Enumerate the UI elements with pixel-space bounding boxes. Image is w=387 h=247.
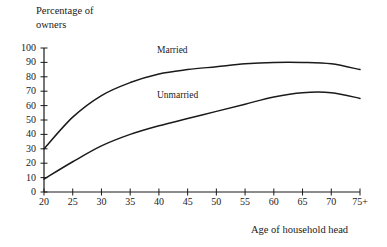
series-label-married: Married	[157, 45, 188, 55]
x-axis-title: Age of household head	[251, 224, 348, 235]
series-label-unmarried: Unmarried	[157, 90, 198, 100]
chart-container: Percentage of owners 0102030405060708090…	[0, 0, 387, 247]
y-tick-label: 0	[14, 187, 36, 197]
y-tick-label: 80	[14, 72, 36, 82]
x-tick-label: 60	[259, 197, 289, 207]
y-tick-label: 50	[14, 115, 36, 125]
x-tick-label: 45	[173, 197, 203, 207]
x-tick-label: 30	[86, 197, 116, 207]
y-tick-label: 70	[14, 86, 36, 96]
y-tick-label: 20	[14, 158, 36, 168]
y-tick-label: 30	[14, 144, 36, 154]
x-tick-label: 70	[316, 197, 346, 207]
x-tick-label: 40	[144, 197, 174, 207]
series-line-unmarried	[44, 92, 360, 179]
x-tick-label: 20	[29, 197, 59, 207]
x-tick-label: 65	[288, 197, 318, 207]
x-tick-label: 35	[115, 197, 145, 207]
series-line-married	[44, 62, 360, 149]
y-tick-label: 10	[14, 173, 36, 183]
y-tick-label: 60	[14, 101, 36, 111]
x-tick-label: 75+	[345, 197, 375, 207]
axis-lines	[44, 48, 360, 192]
x-tick-label: 50	[201, 197, 231, 207]
y-tick-label: 40	[14, 129, 36, 139]
y-tick-label: 100	[14, 43, 36, 53]
chart-plot-area	[0, 0, 387, 247]
x-tick-label: 55	[230, 197, 260, 207]
x-tick-label: 25	[58, 197, 88, 207]
y-tick-label: 90	[14, 57, 36, 67]
